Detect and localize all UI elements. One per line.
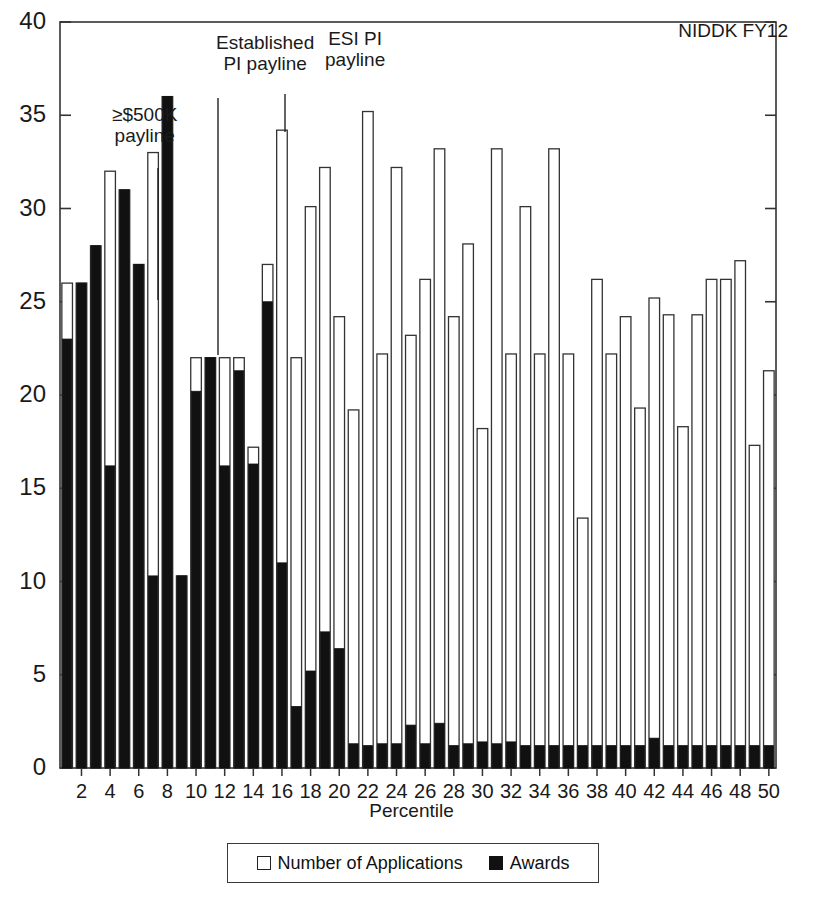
bar-group [491, 149, 502, 768]
x-tick-label: 34 [529, 780, 551, 800]
bar-awards [521, 746, 530, 768]
x-tick-label: 24 [385, 780, 407, 800]
bar-group [449, 317, 460, 768]
bar-awards [306, 671, 315, 768]
bar-applications [764, 371, 775, 768]
x-tick-label: 16 [271, 780, 293, 800]
bar-awards [463, 744, 472, 768]
bar-group [133, 264, 144, 768]
bar-awards [635, 746, 644, 768]
y-tick-label: 10 [19, 567, 46, 594]
chart-corner-label: NIDDK FY12 [678, 20, 788, 42]
bar-awards [564, 746, 573, 768]
chart-figure: NIDDK FY12 05101520253035402468101214161… [0, 0, 823, 900]
bar-group [663, 315, 674, 768]
bar-applications [592, 279, 603, 768]
bar-awards [678, 746, 687, 768]
x-tick-label: 2 [76, 780, 87, 800]
bar-awards [478, 742, 487, 768]
bar-group [305, 207, 316, 768]
bar-group [234, 358, 245, 768]
bar-group [76, 283, 87, 768]
bar-group [219, 358, 230, 768]
bar-group [191, 358, 202, 768]
bar-awards [578, 746, 587, 768]
bar-group [176, 576, 187, 768]
bar-applications [391, 167, 402, 768]
bar-awards [406, 725, 415, 768]
x-tick-label: 46 [700, 780, 722, 800]
bar-awards [392, 744, 401, 768]
bar-group [248, 447, 259, 768]
bar-awards [363, 746, 372, 768]
x-tick-label: 10 [185, 780, 207, 800]
bar-awards [163, 97, 172, 768]
bar-applications [735, 261, 746, 768]
bar-awards [292, 706, 301, 768]
bar-awards [721, 746, 730, 768]
bar-awards [77, 283, 86, 768]
bar-group [262, 264, 273, 768]
bar-group [649, 298, 660, 768]
bar-awards [449, 746, 458, 768]
annotation-established-pi-payline: Established PI payline [216, 32, 314, 75]
bar-group [119, 190, 130, 768]
bar-group [62, 283, 73, 768]
legend-item-applications: Number of Applications [257, 853, 463, 874]
bar-applications [406, 335, 417, 768]
bar-group [635, 408, 646, 768]
bar-group [620, 317, 631, 768]
bar-awards [91, 246, 100, 768]
bar-group [735, 261, 746, 768]
bar-awards [62, 339, 71, 768]
bar-group [463, 244, 474, 768]
bar-group [391, 167, 402, 768]
bar-awards [220, 466, 229, 768]
bar-awards [693, 746, 702, 768]
bar-awards [249, 464, 258, 768]
bar-group [764, 371, 775, 768]
bar-applications [506, 354, 517, 768]
bar-group [162, 97, 173, 768]
bar-group [420, 279, 431, 768]
x-tick-label: 12 [214, 780, 236, 800]
bar-awards [664, 746, 673, 768]
bar-applications [363, 112, 374, 768]
annotation-esi-pi-payline: ESI PI payline [325, 28, 385, 71]
x-tick-label: 26 [414, 780, 436, 800]
bar-applications [678, 427, 689, 768]
bar-applications [663, 315, 674, 768]
x-tick-label: 14 [242, 780, 264, 800]
y-tick-label: 0 [33, 753, 46, 780]
bar-applications [520, 207, 531, 768]
bar-awards [105, 466, 114, 768]
bar-applications [377, 354, 388, 768]
x-tick-label: 20 [328, 780, 350, 800]
bar-awards [607, 746, 616, 768]
bar-group [363, 112, 374, 768]
x-tick-label: 28 [443, 780, 465, 800]
bar-group [592, 279, 603, 768]
bar-group [534, 354, 545, 768]
y-tick-label: 5 [33, 660, 46, 687]
x-axis-title: Percentile [0, 800, 823, 822]
bar-group [91, 246, 102, 768]
bar-applications [434, 149, 445, 768]
legend-label-awards: Awards [510, 853, 570, 874]
x-tick-label: 8 [162, 780, 173, 800]
bar-awards [134, 264, 143, 768]
bar-group [291, 358, 302, 768]
legend-swatch-open-icon [257, 856, 271, 870]
legend-swatch-filled-icon [489, 856, 503, 870]
bar-applications [463, 244, 474, 768]
bar-awards [621, 746, 630, 768]
bar-applications [706, 279, 717, 768]
bar-applications [692, 315, 703, 768]
bar-group [549, 149, 560, 768]
bar-group [148, 153, 159, 768]
bar-awards [736, 746, 745, 768]
chart-legend: Number of Applications Awards [227, 843, 599, 883]
y-tick-label: 35 [19, 100, 46, 127]
bar-group [434, 149, 445, 768]
x-tick-label: 4 [105, 780, 116, 800]
